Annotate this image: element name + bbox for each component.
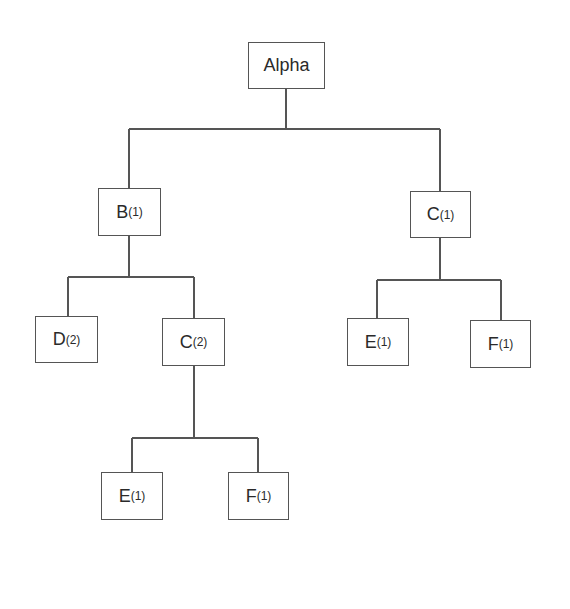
node-label: E bbox=[365, 332, 377, 353]
node-label: Alpha bbox=[263, 55, 309, 76]
node-e1-bottom: E(1) bbox=[101, 472, 163, 520]
node-alpha: Alpha bbox=[248, 42, 325, 89]
node-f1-bottom: F(1) bbox=[228, 472, 289, 520]
node-c1: C(1) bbox=[410, 191, 471, 238]
node-b1: B(1) bbox=[98, 188, 161, 236]
node-f1-right: F(1) bbox=[470, 320, 531, 368]
node-label: B bbox=[116, 202, 128, 223]
node-label: C bbox=[427, 204, 440, 225]
tree-diagram: Alpha B(1) C(1) D(2) C(2) E(1) F(1) E(1)… bbox=[0, 0, 570, 609]
node-c2: C(2) bbox=[162, 318, 225, 366]
node-label: E bbox=[119, 486, 131, 507]
node-label: F bbox=[246, 486, 257, 507]
node-label: C bbox=[180, 332, 193, 353]
node-d2: D(2) bbox=[35, 316, 98, 363]
node-label: F bbox=[488, 334, 499, 355]
node-label: D bbox=[53, 329, 66, 350]
node-e1-right: E(1) bbox=[347, 318, 409, 366]
